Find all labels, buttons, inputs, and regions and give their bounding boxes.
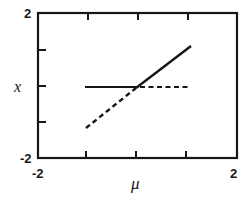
curve-diagonal-stable [136,46,191,88]
y-axis-title: x [14,79,21,95]
x-axis-title: μ [131,175,140,192]
y-axis-left-ticks [38,50,46,122]
x-axis-min-label: -2 [32,167,44,180]
bifurcation-figure: 2 -2 -2 2 x μ [0,0,250,201]
curve-diagonal-unstable [86,88,136,128]
y-axis-max-label: 2 [24,7,31,20]
y-axis-min-label: -2 [20,152,32,165]
x-axis-max-label: 2 [230,167,237,180]
